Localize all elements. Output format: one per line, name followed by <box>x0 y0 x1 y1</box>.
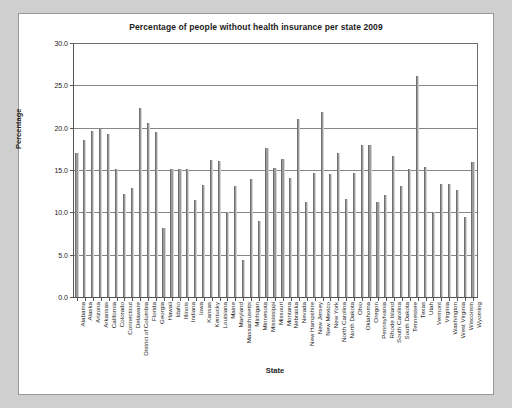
bar <box>273 168 276 297</box>
x-axis-tick-mark <box>362 297 363 301</box>
x-axis-tick-label: California <box>111 302 117 328</box>
bar <box>139 108 142 297</box>
x-axis-tick-mark <box>354 297 355 301</box>
x-axis-tick-label: Michigan <box>254 302 260 327</box>
x-axis-tick-label: District of Columbia <box>143 302 149 356</box>
x-axis-tick-label: Virginia <box>444 302 450 323</box>
bar <box>329 174 332 297</box>
x-axis-tick-mark <box>291 297 292 301</box>
x-axis-tick-label: New Mexico <box>325 302 331 336</box>
x-axis-tick-mark <box>85 297 86 301</box>
bar <box>281 159 284 297</box>
bar <box>250 179 253 297</box>
bar <box>400 186 403 297</box>
x-axis-tick-label: West Virginia <box>460 302 466 338</box>
x-axis-tick-mark <box>109 297 110 301</box>
bar <box>242 260 245 297</box>
y-axis-label: Percentage <box>14 109 23 149</box>
x-axis-tick-mark <box>315 297 316 301</box>
bar <box>186 169 189 297</box>
y-axis-tick-label: 0.0 <box>58 294 68 301</box>
y-axis-tick-label: 15.0 <box>54 167 68 174</box>
bar <box>440 184 443 297</box>
x-axis-tick-mark <box>330 297 331 301</box>
plot-frame-right <box>477 43 478 297</box>
x-axis-tick-mark <box>227 297 228 301</box>
bar <box>384 195 387 297</box>
bars-layer <box>73 43 477 297</box>
x-axis-tick-label: Minnesota <box>262 302 268 331</box>
bar <box>155 132 158 297</box>
x-axis-tick-mark <box>148 297 149 301</box>
chart-title: Percentage of people without health insu… <box>19 22 493 32</box>
bar <box>471 162 474 297</box>
x-axis-tick-mark <box>457 297 458 301</box>
x-axis-tick-label: Oregon <box>373 302 379 323</box>
bar <box>258 221 261 297</box>
bar <box>368 145 371 297</box>
bar <box>194 200 197 297</box>
x-axis-tick-mark <box>220 297 221 301</box>
x-axis-tick-label: South Carolina <box>396 302 402 343</box>
x-axis-tick-label: Maine <box>230 302 236 319</box>
bar <box>218 161 221 297</box>
x-axis-tick-mark <box>124 297 125 301</box>
bar <box>456 190 459 297</box>
x-axis-tick-label: Montana <box>286 302 292 326</box>
x-axis-tick-mark <box>204 297 205 301</box>
bar <box>107 134 110 297</box>
bar <box>448 184 451 297</box>
bar <box>361 145 364 297</box>
x-axis-tick-mark <box>77 297 78 301</box>
x-axis-tick-label: South Dakota <box>404 302 410 340</box>
x-axis-tick-label: Oklahoma <box>365 302 371 330</box>
x-axis-tick-mark <box>243 297 244 301</box>
x-axis-tick-label: Utah <box>428 302 434 315</box>
x-axis-tick-label: Illinois <box>183 302 189 319</box>
x-axis-tick-mark <box>378 297 379 301</box>
x-axis-tick-label: Pennsylvania <box>381 302 387 339</box>
x-axis-tick-mark <box>386 297 387 301</box>
x-axis-tick-mark <box>441 297 442 301</box>
x-axis-tick-mark <box>259 297 260 301</box>
x-axis-tick-label: Washington <box>452 302 458 334</box>
x-axis-tick-mark <box>267 297 268 301</box>
bar <box>321 112 324 297</box>
x-axis-tick-label: Alabama <box>80 302 86 326</box>
x-axis-tick-mark <box>156 297 157 301</box>
x-axis-tick-label: Massachusetts <box>246 302 252 343</box>
x-axis-tick-label: Louisiana <box>222 302 228 329</box>
x-axis-tick-mark <box>101 297 102 301</box>
bar <box>99 129 102 297</box>
x-axis-tick-mark <box>196 297 197 301</box>
x-axis-tick-label: Hawaii <box>167 302 173 321</box>
x-axis-tick-label: Delaware <box>135 302 141 328</box>
bar <box>464 217 467 297</box>
x-axis-tick-mark <box>418 297 419 301</box>
x-axis-tick-label: Idaho <box>175 302 181 317</box>
x-axis-tick-label: Missouri <box>278 302 284 325</box>
x-axis-tick-label: Maryland <box>238 302 244 327</box>
x-axis-tick-mark <box>346 297 347 301</box>
x-axis-tick-label: Arizona <box>95 302 101 323</box>
x-axis-tick-label: Nevada <box>301 302 307 323</box>
bar <box>376 202 379 297</box>
bar <box>131 188 134 297</box>
x-axis-tick-label: Tennessee <box>412 302 418 332</box>
x-axis-tick-mark <box>299 297 300 301</box>
x-axis-tick-label: Rhode Island <box>389 302 395 338</box>
bar <box>305 202 308 297</box>
bar <box>408 169 411 297</box>
x-axis-tick-label: Vermont <box>436 302 442 325</box>
bar <box>265 148 268 297</box>
bar <box>392 156 395 297</box>
x-axis-tick-label: Georgia <box>159 302 165 324</box>
x-axis-tick-label: North Dakota <box>349 302 355 338</box>
x-axis-tick-mark <box>212 297 213 301</box>
x-axis-tick-label: Connecticut <box>127 302 133 335</box>
x-axis-tick-label: New Jersey <box>317 302 323 334</box>
x-axis-tick-label: Indiana <box>190 302 196 322</box>
x-axis-tick-mark <box>235 297 236 301</box>
x-axis-tick-mark <box>180 297 181 301</box>
bar <box>226 212 229 298</box>
